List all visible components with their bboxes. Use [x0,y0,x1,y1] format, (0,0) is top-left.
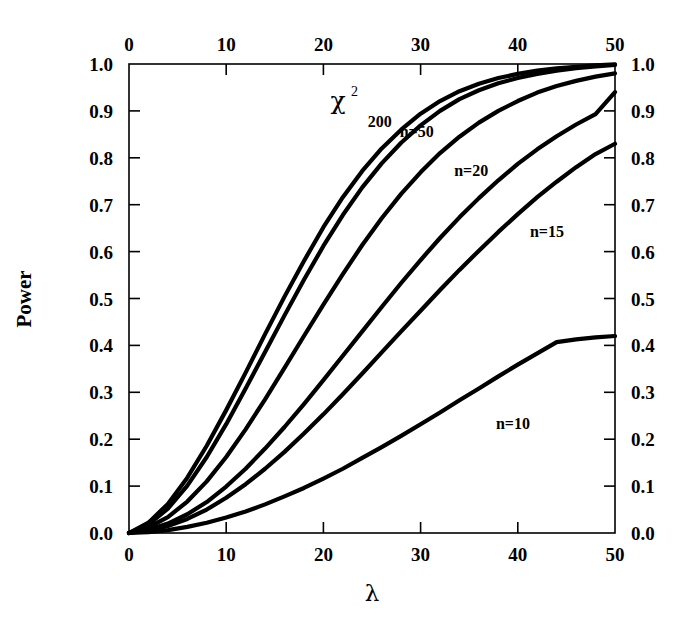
y-tick-label-right: 0.2 [631,429,655,450]
x-axis-title: λ [365,580,380,606]
y-tick-label-left: 0.7 [89,195,113,216]
x-tick-label-bottom: 30 [411,544,430,565]
x-tick-label-top: 10 [217,34,236,55]
y-tick-label-right: 0.7 [631,195,655,216]
y-tick-label-left: 0.9 [89,101,113,122]
curve-label-n15: n=15 [530,223,564,240]
y-tick-label-left: 0.0 [89,523,113,544]
curve-label-n50: n=50 [400,123,434,140]
curve-label-n10: n=10 [496,415,530,432]
y-tick-label-right: 0.0 [631,523,655,544]
y-tick-label-right: 1.0 [631,54,655,75]
x-tick-label-top: 30 [411,34,430,55]
power-vs-lambda-chart: 01020304050010203040500.00.10.20.30.40.5… [0,0,692,626]
x-tick-label-bottom: 40 [508,544,527,565]
x-tick-label-top: 50 [606,34,625,55]
x-tick-label-bottom: 50 [606,544,625,565]
x-tick-label-bottom: 20 [314,544,333,565]
y-tick-label-right: 0.5 [631,289,655,310]
x-tick-label-top: 40 [508,34,527,55]
x-tick-label-bottom: 0 [124,544,134,565]
curve-label-200: 200 [368,113,392,130]
x-tick-label-top: 20 [314,34,333,55]
x-tick-label-bottom: 10 [217,544,236,565]
chart-figure: 01020304050010203040500.00.10.20.30.40.5… [0,0,692,626]
x-tick-label-top: 0 [124,34,134,55]
y-tick-label-right: 0.8 [631,148,655,169]
y-tick-label-right: 0.6 [631,242,655,263]
y-tick-label-left: 0.5 [89,289,113,310]
y-tick-label-left: 1.0 [89,54,113,75]
curve-label-n20: n=20 [454,162,488,179]
y-tick-label-left: 0.4 [89,335,113,356]
y-axis-title: Power [12,270,36,327]
curve-label-superscript: 2 [351,84,358,99]
y-tick-label-left: 0.8 [89,148,113,169]
y-tick-label-left: 0.1 [89,476,113,497]
y-tick-label-right: 0.1 [631,476,655,497]
y-tick-label-left: 0.2 [89,429,113,450]
curve-label-: χ [330,86,345,115]
y-tick-label-left: 0.3 [89,382,113,403]
y-tick-label-right: 0.3 [631,382,655,403]
y-tick-label-left: 0.6 [89,242,113,263]
y-tick-label-right: 0.4 [631,335,655,356]
y-tick-label-right: 0.9 [631,101,655,122]
